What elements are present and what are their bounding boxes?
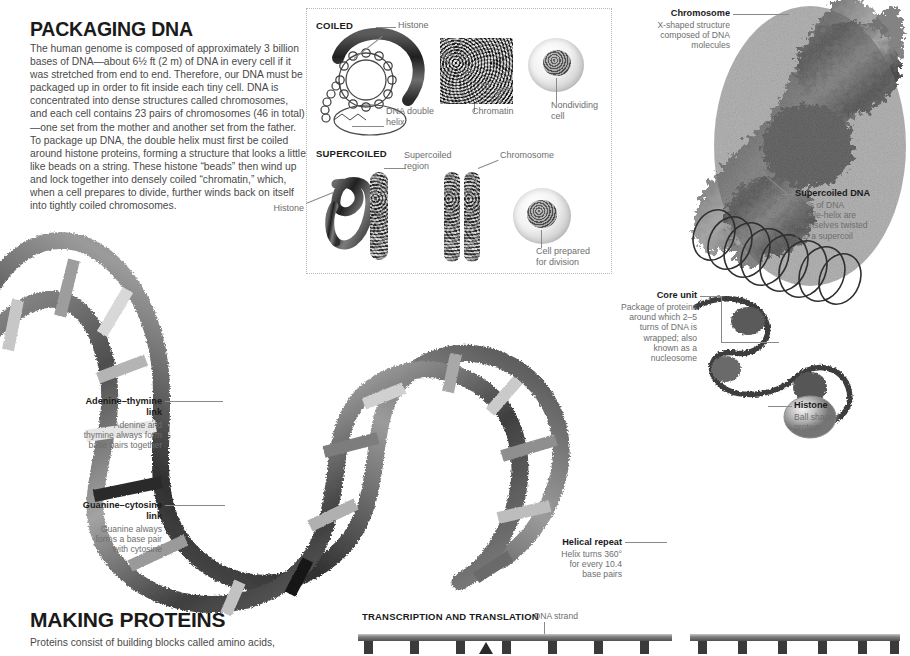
supercoiled-dna-callout-title: Supercoiled DNA: [795, 188, 900, 198]
supercoiled-heading: SUPERCOILED: [316, 148, 387, 159]
chromosome-callout-leader: [733, 14, 789, 15]
histone-callout-desc: Ball shaped protein: [794, 412, 894, 432]
making-proteins-body: Proteins consist of building blocks call…: [30, 636, 360, 649]
helical-repeat-callout-leader: [625, 542, 667, 543]
making-proteins-heading: MAKING PROTEINS: [30, 608, 225, 632]
nondividing-cell-leader: [556, 78, 557, 102]
chromosome-rod-left: [444, 172, 460, 262]
transcription-heading: TRANSCRIPTION AND TRANSLATION: [362, 611, 539, 622]
transcription-dna-strand-left: [358, 634, 672, 656]
coiled-histone-leader: [376, 27, 396, 28]
helical-repeat-callout-title: Helical repeat: [500, 537, 622, 547]
chromosome-pair-label: Chromosome: [500, 150, 554, 161]
nondividing-cell-nucleus: [543, 50, 571, 76]
histone-callout-title: Histone: [794, 400, 894, 410]
core-unit-callout-title: Core unit: [600, 290, 697, 300]
guanine-cytosine-callout-leader: [165, 505, 225, 506]
adenine-thymine-callout-leader: [165, 401, 223, 402]
guanine-cytosine-callout-desc: Guanine always forms a base pair with cy…: [20, 524, 162, 555]
core-unit-callout-leader-3: [721, 342, 779, 343]
adenine-thymine-callout-desc: Adenine and thymine always form base pai…: [20, 420, 162, 451]
chromatin-micrograph: [440, 38, 513, 104]
coiled-dna-helix-label: DNA double helix: [386, 106, 434, 127]
chromosome-rod-right: [464, 172, 480, 262]
core-unit-callout-leader: [700, 296, 722, 297]
chromosome-callout-desc: X-shaped structure composed of DNA molec…: [600, 20, 730, 51]
dna-strand-label: DNA strand: [534, 611, 578, 622]
supercoiled-region-rod: [370, 172, 388, 260]
histone-callout-leader: [768, 406, 792, 407]
coiled-dna-helix-leader: [352, 126, 384, 127]
helical-repeat-callout-desc: Helix turns 360° for every 10.4 base pai…: [500, 549, 622, 580]
supercoiled-region-label: Supercoiled region: [404, 150, 452, 171]
nondividing-cell-label: Nondividing cell: [551, 100, 598, 121]
supercoiled-dna-callout-desc: Coils of DNA double-helix are themselves…: [795, 200, 900, 241]
supercoiled-region-leader: [384, 168, 406, 169]
chromosome-callout-title: Chromosome: [620, 8, 730, 18]
chromatin-label: Chromatin: [472, 106, 514, 117]
coiled-histone-label: Histone: [398, 20, 429, 31]
transcription-dna-strand-right: [690, 634, 900, 656]
packaging-dna-heading: PACKAGING DNA: [30, 18, 193, 41]
dividing-cell-label: Cell prepared for division: [536, 246, 590, 267]
core-unit-callout-desc: Package of proteins around which 2–5 tur…: [592, 302, 697, 363]
adenine-thymine-callout-title: Adenine–thymine link: [20, 396, 162, 418]
guanine-cytosine-callout-title: Guanine–cytosine link: [20, 500, 162, 522]
packaging-dna-body: The human genome is composed of approxim…: [30, 42, 308, 212]
core-unit-callout-leader-2: [721, 296, 722, 342]
dividing-cell-nucleus: [527, 200, 557, 228]
